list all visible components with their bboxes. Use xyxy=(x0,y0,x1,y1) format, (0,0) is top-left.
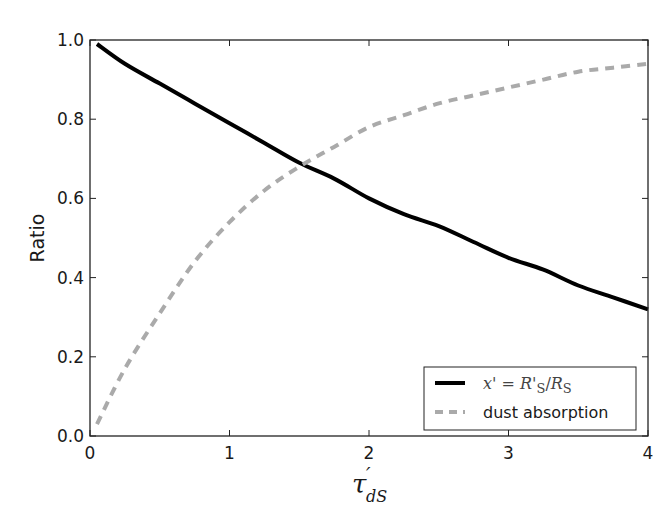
line-chart: 012340.00.20.40.60.81.0 Ratio τ ′ dS x' … xyxy=(0,0,671,526)
x-axis-label: τ ′ dS xyxy=(352,463,387,506)
x-axis-label-subscript: dS xyxy=(366,487,387,506)
x-axis-label-prime: ′ xyxy=(366,463,371,487)
y-tick-label: 0.2 xyxy=(57,347,84,367)
x-tick-label: 1 xyxy=(224,443,235,463)
y-axis-label: Ratio xyxy=(26,214,48,263)
y-tick-label: 0.0 xyxy=(57,426,84,446)
legend-label-dust-absorption: dust absorption xyxy=(483,403,608,422)
y-tick-label: 0.4 xyxy=(57,268,84,288)
x-tick-label: 4 xyxy=(643,443,654,463)
x-tick-label: 2 xyxy=(364,443,375,463)
x-tick-label: 0 xyxy=(85,443,96,463)
x-tick-label: 3 xyxy=(503,443,514,463)
x-axis-label-tau: τ xyxy=(352,469,367,499)
y-tick-label: 1.0 xyxy=(57,30,84,50)
y-tick-label: 0.6 xyxy=(57,188,84,208)
series-line-radius-ratio xyxy=(97,44,648,309)
legend-label-ratio: x' = R'S/RS xyxy=(483,374,572,396)
legend: x' = R'S/RS dust absorption xyxy=(424,367,636,430)
y-tick-label: 0.8 xyxy=(57,109,84,129)
